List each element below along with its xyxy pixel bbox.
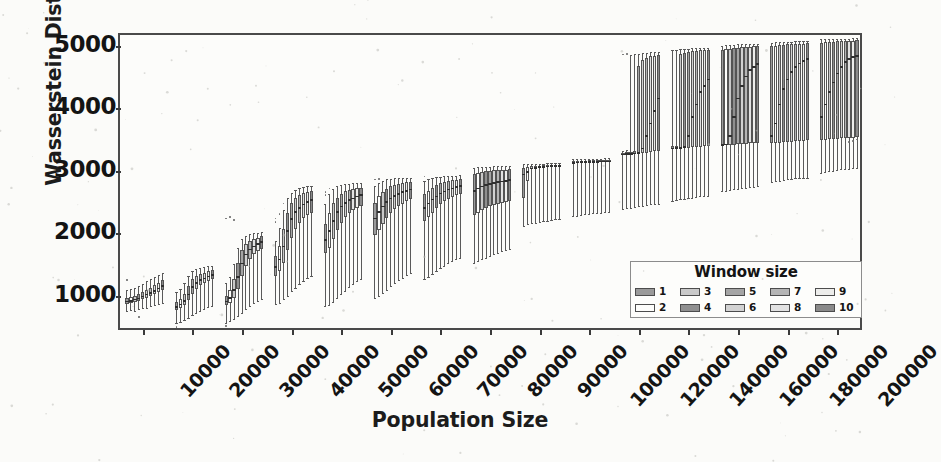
box[interactable] (302, 193, 305, 218)
box[interactable] (695, 51, 698, 147)
box[interactable] (699, 50, 702, 146)
box[interactable] (645, 58, 648, 153)
legend-item-8[interactable]: 8 (770, 302, 801, 313)
median-line (256, 243, 259, 245)
box[interactable] (736, 48, 739, 145)
legend-item-9[interactable]: 9 (815, 286, 846, 297)
box[interactable] (310, 191, 313, 213)
median-line (778, 104, 781, 106)
whisker-lower (448, 199, 449, 263)
box[interactable] (492, 170, 495, 205)
box[interactable] (488, 171, 491, 207)
whisker-upper (390, 179, 391, 187)
box[interactable] (679, 54, 682, 148)
box[interactable] (786, 44, 789, 142)
box[interactable] (336, 198, 339, 231)
box[interactable] (641, 60, 644, 153)
legend-item-3[interactable]: 3 (680, 286, 711, 297)
box[interactable] (851, 41, 854, 138)
box[interactable] (653, 56, 656, 152)
box[interactable] (508, 169, 511, 200)
box[interactable] (657, 55, 660, 151)
box[interactable] (724, 49, 727, 145)
box[interactable] (637, 66, 640, 154)
box[interactable] (500, 170, 503, 203)
cap-upper (848, 39, 850, 40)
box[interactable] (359, 188, 362, 206)
box[interactable] (774, 46, 777, 143)
legend-item-4[interactable]: 4 (680, 302, 711, 313)
box[interactable] (836, 41, 839, 139)
whisker-lower (803, 141, 804, 178)
box[interactable] (484, 171, 487, 208)
box[interactable] (752, 46, 755, 143)
legend-item-10[interactable]: 10 (815, 302, 854, 313)
box[interactable] (649, 56, 652, 152)
box[interactable] (691, 51, 694, 147)
box[interactable] (782, 45, 785, 143)
box[interactable] (344, 191, 347, 217)
box[interactable] (794, 44, 797, 141)
legend-item-1[interactable]: 1 (635, 286, 666, 297)
legend-item-5[interactable]: 5 (725, 286, 756, 297)
whisker-upper (329, 194, 330, 213)
box[interactable] (476, 173, 479, 213)
box[interactable] (473, 174, 476, 215)
box[interactable] (721, 50, 724, 146)
box[interactable] (355, 188, 358, 207)
box[interactable] (522, 168, 525, 198)
legend-item-6[interactable]: 6 (725, 302, 756, 313)
box[interactable] (504, 170, 507, 202)
box[interactable] (748, 47, 751, 144)
box[interactable] (385, 189, 388, 218)
box[interactable] (824, 42, 827, 140)
box[interactable] (844, 41, 847, 138)
box[interactable] (798, 44, 801, 141)
legend-item-2[interactable]: 2 (635, 302, 666, 313)
box[interactable] (381, 192, 384, 224)
box[interactable] (707, 50, 710, 146)
legend-item-7[interactable]: 7 (770, 286, 801, 297)
box[interactable] (790, 44, 793, 142)
box[interactable] (340, 194, 343, 223)
box[interactable] (401, 183, 404, 204)
box[interactable] (802, 44, 805, 141)
box[interactable] (847, 41, 850, 138)
box[interactable] (306, 192, 309, 215)
box[interactable] (526, 167, 529, 181)
box[interactable] (393, 185, 396, 209)
box[interactable] (732, 48, 735, 145)
box[interactable] (290, 203, 293, 237)
box[interactable] (389, 186, 392, 213)
box[interactable] (703, 50, 706, 146)
box[interactable] (409, 182, 412, 200)
cap-upper (324, 204, 326, 205)
box[interactable] (770, 46, 773, 143)
box[interactable] (480, 172, 483, 210)
box[interactable] (778, 45, 781, 143)
whisker-upper (146, 281, 147, 290)
box[interactable] (298, 195, 301, 223)
median-line (191, 286, 194, 288)
whisker-upper (341, 185, 342, 194)
median-line (137, 298, 140, 300)
box[interactable] (820, 43, 823, 141)
box[interactable] (687, 52, 690, 148)
box[interactable] (728, 49, 731, 145)
box[interactable] (397, 184, 400, 207)
box[interactable] (348, 190, 351, 213)
box[interactable] (756, 46, 759, 143)
box[interactable] (294, 198, 297, 229)
whisker-lower (345, 217, 346, 291)
box[interactable] (683, 53, 686, 148)
box[interactable] (832, 42, 835, 140)
box[interactable] (740, 47, 743, 144)
box[interactable] (496, 170, 499, 204)
box[interactable] (405, 182, 408, 201)
legend[interactable]: Window size 13579 246810 (630, 261, 862, 318)
y-tick-mark (116, 171, 121, 173)
box[interactable] (840, 41, 843, 139)
box[interactable] (744, 47, 747, 144)
box[interactable] (377, 196, 380, 230)
box[interactable] (351, 189, 354, 210)
